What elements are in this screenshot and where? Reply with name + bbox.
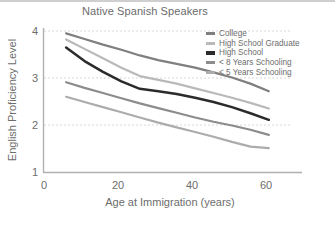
x-tick-20: 20: [112, 179, 124, 191]
legend-item-label: College: [219, 29, 247, 38]
legend-color-swatch: [206, 61, 215, 64]
chart-legend: CollegeHigh School GraduateHigh School< …: [206, 29, 334, 77]
legend-item-label: < 5 Years Schooling: [219, 68, 292, 77]
legend-item[interactable]: < 5 Years Schooling: [206, 67, 334, 77]
y-tick-3: 3: [32, 72, 38, 84]
x-axis-ticks: 0 20 40 60: [41, 179, 272, 191]
legend-item-label: < 8 Years Schooling: [219, 58, 292, 67]
x-tick-60: 60: [260, 179, 272, 191]
legend-item[interactable]: < 8 Years Schooling: [206, 58, 334, 68]
y-axis-title: English Proficiency Level: [6, 39, 18, 161]
series-line: [66, 97, 269, 148]
legend-item-label: High School Graduate: [219, 39, 300, 48]
legend-color-swatch: [206, 51, 215, 54]
y-tick-4: 4: [32, 25, 38, 37]
y-tick-1: 1: [32, 166, 38, 178]
x-axis-title: Age at Immigration (years): [105, 196, 235, 208]
legend-item[interactable]: High School Graduate: [206, 39, 334, 49]
y-axis-ticks: 4 3 2 1: [32, 25, 38, 178]
y-tick-2: 2: [32, 119, 38, 131]
legend-color-swatch: [206, 42, 215, 45]
x-tick-40: 40: [186, 179, 198, 191]
legend-item[interactable]: High School: [206, 48, 334, 58]
legend-color-swatch: [206, 71, 215, 74]
legend-item-label: High School: [219, 48, 263, 57]
legend-color-swatch: [206, 32, 215, 35]
legend-item[interactable]: College: [206, 29, 334, 39]
x-tick-0: 0: [41, 179, 47, 191]
chart-container: Native Spanish Speakers 4 3 2 1 0 20 40 …: [0, 0, 335, 228]
